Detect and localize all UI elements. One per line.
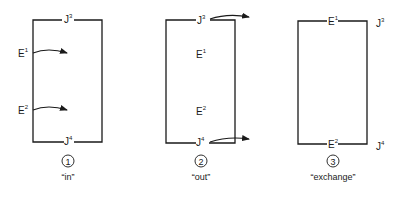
panel-in-label-top: J3 bbox=[64, 13, 73, 25]
panel-exchange-label-top: E1 bbox=[328, 15, 339, 27]
panel-in-label-e1: E1 bbox=[18, 47, 29, 59]
panel-in-rectangle bbox=[33, 20, 102, 142]
panel-exchange-number: 3 bbox=[330, 157, 335, 167]
diagram-canvas: J3 J4 E1 E2 1 “in” J3 J4 E1 E2 2 “out” E… bbox=[0, 0, 405, 197]
panel-in-label-bottom: J4 bbox=[64, 135, 73, 147]
panel-out: J3 J4 E1 E2 2 “out” bbox=[166, 14, 249, 182]
panel-out-label-bottom: J4 bbox=[196, 136, 205, 148]
arrow-in-upper-icon bbox=[33, 50, 67, 53]
panel-out-caption: “out” bbox=[192, 172, 211, 182]
arrow-in-lower-icon bbox=[33, 107, 67, 110]
arrow-out-lower-icon bbox=[210, 138, 249, 142]
panel-in: J3 J4 E1 E2 1 “in” bbox=[18, 13, 102, 182]
panel-exchange-rectangle bbox=[298, 21, 367, 144]
arrow-out-upper-icon bbox=[210, 15, 249, 19]
panel-in-label-e2: E2 bbox=[18, 104, 29, 116]
panel-out-number: 2 bbox=[198, 157, 203, 167]
panel-exchange-label-j3: J3 bbox=[376, 17, 385, 29]
panel-exchange-label-bottom: E2 bbox=[328, 138, 339, 150]
panel-exchange-label-j4: J4 bbox=[376, 140, 385, 152]
panel-out-label-e2: E2 bbox=[196, 105, 207, 117]
panel-in-number: 1 bbox=[65, 157, 70, 167]
panel-out-label-top: J3 bbox=[197, 14, 206, 26]
panel-in-caption: “in” bbox=[62, 172, 75, 182]
panel-exchange-caption: “exchange” bbox=[310, 172, 355, 182]
panel-exchange: E1 E2 J3 J4 3 “exchange” bbox=[298, 15, 385, 182]
panel-out-label-e1: E1 bbox=[196, 48, 207, 60]
panel-out-rectangle bbox=[166, 20, 235, 143]
